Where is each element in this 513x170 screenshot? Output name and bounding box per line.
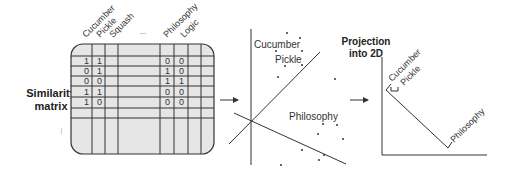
cell: 1 [179, 76, 184, 86]
cell: 1 [84, 87, 89, 97]
cell: 1 [97, 56, 102, 66]
cell: 0 [179, 56, 184, 66]
similarity-matrix-panel: Similarity matrix ... 1 1 [26, 1, 214, 154]
matrix-label-line1: Similarity [26, 87, 76, 99]
diagonal-axis-line [229, 52, 320, 144]
cell: 0 [84, 76, 89, 86]
scatter-panel: Cucumber Pickle Philosophy [229, 29, 346, 166]
cell: 0 [165, 87, 170, 97]
cell: 1 [97, 66, 102, 76]
cell: 1 [97, 87, 102, 97]
cell: 1 [84, 97, 89, 107]
cell: 1 [165, 66, 170, 76]
diagram-canvas: Similarity matrix ... 1 1 [0, 0, 513, 170]
cell: 0 [179, 97, 184, 107]
projection-title-line2: into 2D [349, 48, 383, 59]
cell: 0 [84, 66, 89, 76]
cucumber-marker [386, 84, 391, 90]
pickle-marker [391, 87, 398, 91]
projection-panel: Projection into 2D Cucumber Pickle Philo… [342, 36, 487, 155]
philosophy-marker [448, 142, 452, 148]
projection-title-line1: Projection [342, 36, 391, 47]
matrix-column-headers: Cucumber Pickle Squash ... Philosophy Lo… [80, 1, 201, 40]
cell: 0 [179, 87, 184, 97]
projection-label-philosophy: Philosophy [448, 106, 487, 145]
cell: 0 [97, 76, 102, 86]
column-header-ellipsis: ... [140, 28, 146, 35]
scatter-points [275, 32, 344, 166]
matrix-label-line2: matrix [34, 100, 68, 112]
row-ellipsis: ... [60, 128, 67, 134]
scatter-label-cucumber: Cucumber [254, 39, 301, 50]
cell: 0 [165, 97, 170, 107]
cell: 1 [165, 76, 170, 86]
cell: 0 [165, 56, 170, 66]
cell: 0 [97, 97, 102, 107]
scatter-label-pickle: Pickle [275, 54, 302, 65]
projection-line [386, 90, 448, 148]
cell: 1 [84, 56, 89, 66]
scatter-label-philosophy: Philosophy [289, 111, 338, 122]
cell: 0 [179, 66, 184, 76]
